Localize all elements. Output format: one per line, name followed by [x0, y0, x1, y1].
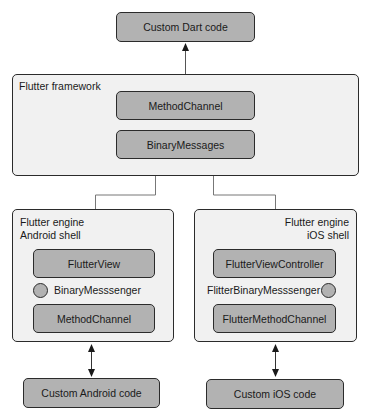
ios-messenger-interface-icon	[321, 283, 336, 298]
custom-ios-code-box: Custom iOS code	[206, 379, 344, 409]
flutter-framework-label: Flutter framework	[19, 80, 101, 93]
custom-android-code-box: Custom Android code	[23, 378, 160, 408]
framework-method-channel: MethodChannel	[116, 91, 255, 120]
android-method-channel: MethodChannel	[33, 304, 155, 333]
ios-shell-label-line1: Flutter engine	[285, 216, 349, 229]
custom-ios-code-label: Custom iOS code	[234, 388, 316, 400]
android-shell-label-line2: Android shell	[20, 229, 81, 242]
ios-flutter-view-controller-label: FlutterViewController	[226, 258, 324, 270]
android-method-channel-label: MethodChannel	[57, 313, 131, 325]
ios-flutter-view-controller: FlutterViewController	[213, 249, 336, 278]
ios-binary-messenger-label: FlitterBinaryMesssenger	[207, 284, 320, 297]
framework-binary-messages: BinaryMessages	[116, 130, 255, 159]
android-messenger-interface-icon	[33, 283, 48, 298]
android-shell-label-line1: Flutter engine	[20, 216, 84, 229]
custom-android-code-label: Custom Android code	[41, 387, 141, 399]
custom-dart-code-label: Custom Dart code	[143, 21, 228, 33]
android-flutter-view: FlutterView	[33, 249, 155, 278]
ios-method-channel-label: FlutterMethodChannel	[223, 313, 327, 325]
framework-method-channel-label: MethodChannel	[148, 100, 222, 112]
android-binary-messenger-label: BinaryMesssenger	[54, 284, 141, 297]
ios-shell-label-line2: iOS shell	[307, 229, 349, 242]
ios-method-channel: FlutterMethodChannel	[213, 304, 336, 333]
framework-binary-messages-label: BinaryMessages	[147, 139, 225, 151]
custom-dart-code-box: Custom Dart code	[116, 12, 255, 42]
flutter-framework-panel: Flutter framework	[12, 74, 359, 176]
android-flutter-view-label: FlutterView	[68, 258, 120, 270]
